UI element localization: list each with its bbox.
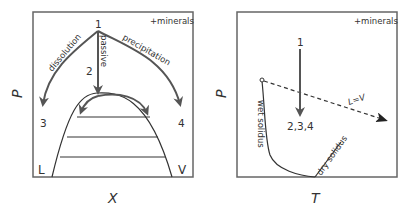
left-minerals-note: +minerals — [150, 16, 194, 26]
critical-curve-label: L=V — [347, 92, 368, 107]
passive-label: passive — [99, 35, 109, 67]
right-point-1: 1 — [297, 36, 304, 48]
left-point-4: 4 — [178, 117, 185, 129]
left-point-1: 1 — [95, 18, 102, 30]
vapor-label: V — [178, 163, 187, 177]
dry-solidus-label: dry solidus — [314, 133, 349, 177]
liquid-label: L — [38, 163, 45, 177]
left-point-2: 2 — [86, 65, 93, 77]
right-point-2-3-4: 2,3,4 — [287, 120, 314, 132]
right-frame — [237, 12, 397, 177]
critical-curve-arrow — [264, 81, 385, 120]
dissolution-label: dissolution — [46, 32, 83, 74]
left-x-axis-label: X — [107, 190, 118, 206]
right-x-axis-label: T — [311, 190, 321, 206]
precipitation-label: precipitation — [121, 32, 172, 67]
left-point-3: 3 — [40, 117, 47, 129]
wet-solidus-label: wet solidus — [256, 100, 266, 148]
right-panel: +minerals 1 2,3,4 wet solidus dry solidu… — [213, 12, 398, 206]
left-y-axis-label: P — [9, 89, 25, 98]
critical-endpoint — [260, 78, 264, 82]
diagram-canvas: +minerals 1 2 3 4 dissolution passive pr… — [0, 0, 408, 215]
right-minerals-note: +minerals — [354, 16, 398, 26]
left-panel: +minerals 1 2 3 4 dissolution passive pr… — [9, 12, 194, 206]
right-y-axis-label: P — [213, 89, 229, 98]
two-phase-dome — [52, 93, 172, 177]
